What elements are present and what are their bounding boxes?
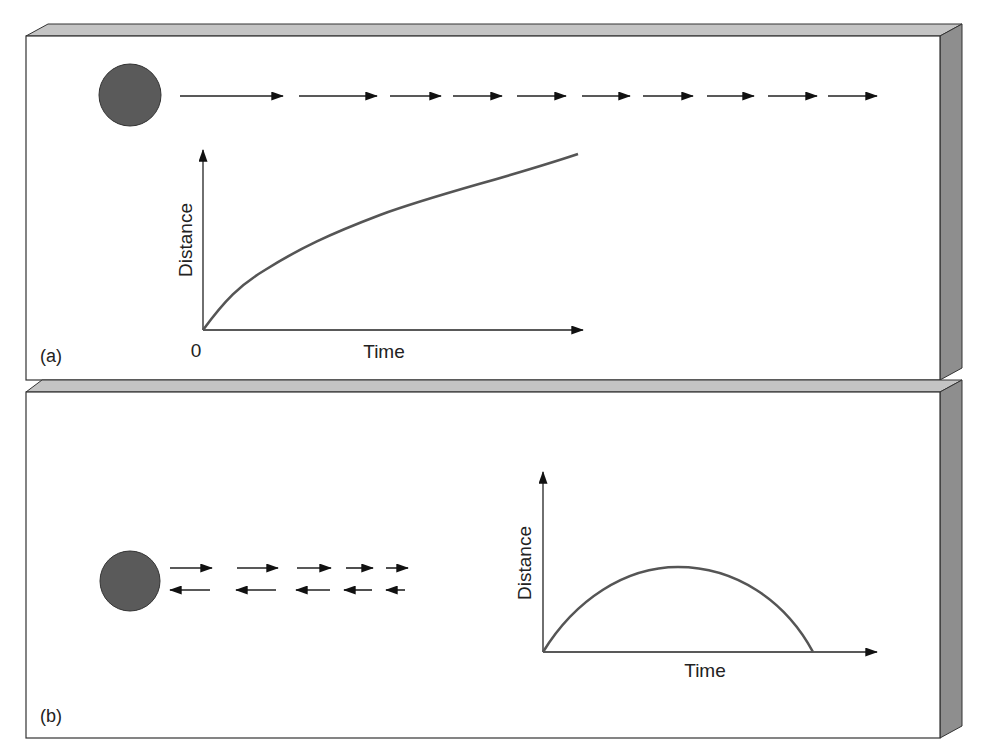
x-axis-label-a: Time bbox=[363, 341, 405, 362]
y-axis-label-b: Distance bbox=[514, 526, 535, 600]
ball-a bbox=[99, 64, 161, 126]
origin-label-a: 0 bbox=[191, 340, 202, 361]
figure-canvas: Distance Time 0 (a) Distance Time (b) bbox=[0, 0, 984, 751]
panel-a-box bbox=[26, 24, 962, 380]
ball-b bbox=[100, 551, 160, 611]
x-axis-label-b: Time bbox=[684, 660, 726, 681]
panel-label-a: (a) bbox=[40, 346, 62, 366]
y-axis-label-a: Distance bbox=[175, 203, 196, 277]
panel-label-b: (b) bbox=[40, 706, 62, 726]
panel-b-box bbox=[26, 380, 962, 738]
